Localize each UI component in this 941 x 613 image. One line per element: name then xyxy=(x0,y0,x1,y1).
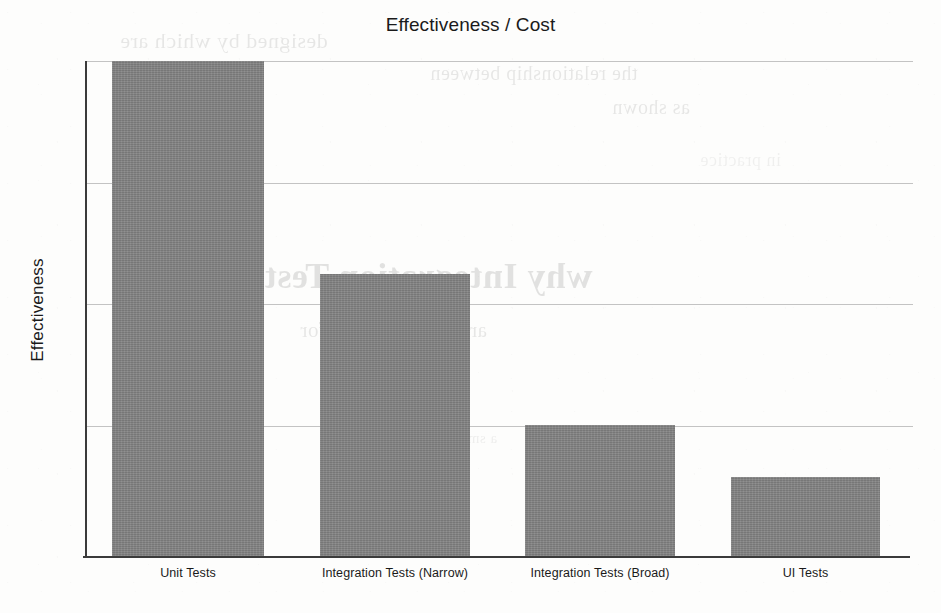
x-axis-tick-label: Unit Tests xyxy=(72,566,304,580)
chart-page: designed by which are the relationship b… xyxy=(0,0,941,613)
x-axis-line xyxy=(83,556,910,558)
bar xyxy=(320,274,470,556)
bar xyxy=(525,425,675,556)
x-axis-tick-label: UI Tests xyxy=(691,566,920,580)
chart-title: Effectiveness / Cost xyxy=(0,14,941,36)
x-axis-tick-label: Integration Tests (Narrow) xyxy=(280,566,510,580)
y-axis-label: Effectiveness xyxy=(28,210,48,410)
x-axis-tick-label: Integration Tests (Broad) xyxy=(485,566,715,580)
bar-chart: Effectiveness / Cost Effectiveness Unit … xyxy=(0,0,941,613)
plot-area xyxy=(85,61,913,556)
bar xyxy=(112,61,264,556)
bar xyxy=(731,477,880,556)
bar-series xyxy=(85,61,913,556)
